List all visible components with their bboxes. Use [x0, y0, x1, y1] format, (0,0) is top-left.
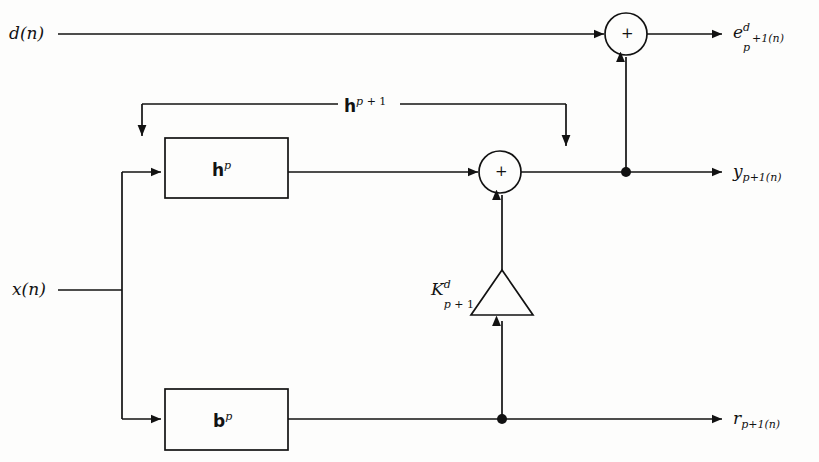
b-filter-block-label-base: b: [213, 411, 225, 431]
feedback-label-base: h: [344, 96, 356, 116]
b-filter-block-label: bp: [213, 411, 232, 430]
output-label-y-tail: +1(n): [750, 171, 782, 184]
output-label-y-base: y: [733, 161, 743, 181]
feedback-label-superscript: p + 1: [356, 95, 386, 108]
feedback-label-h-update: hp + 1: [344, 96, 386, 115]
gain-triangle-shape: [471, 270, 533, 315]
error-adder-plus-symbol: +: [621, 26, 634, 41]
gain-label-k-subscript-increment: + 1: [451, 298, 474, 311]
output-label-r: rp+1(n): [733, 410, 780, 430]
output-label-y: yp+1(n): [733, 163, 782, 183]
h-filter-block-label: hp: [212, 160, 231, 179]
gain-label-k-subscript-order: p: [444, 298, 451, 311]
gain-label-k-base: K: [431, 279, 444, 299]
output-adder-plus-symbol: +: [495, 164, 508, 179]
output-label-r-base: r: [733, 408, 741, 428]
h-filter-block-label-superscript: p: [224, 159, 231, 172]
output-label-e-superscript: d: [743, 22, 750, 33]
output-label-e-subscript: p: [743, 42, 750, 53]
block-diagram-canvas: + + d(n) x(n) edp+1(n) yp+1(n) rp+1(n) h…: [0, 0, 819, 462]
h-filter-block-label-base: h: [212, 160, 224, 180]
input-label-x: x(n): [12, 281, 46, 298]
gain-label-k-subscript: p + 1: [444, 299, 474, 310]
junction-dot-y: [621, 167, 631, 177]
input-label-d: d(n): [9, 25, 44, 42]
diagram-wires: [0, 0, 819, 462]
output-label-e: edp+1(n): [733, 24, 784, 44]
output-label-y-subscript: p: [743, 171, 750, 184]
feedback-label-superscript-increment: + 1: [363, 95, 386, 108]
output-label-e-tail: +1(n): [752, 32, 784, 45]
gain-label-k-superscript: d: [444, 279, 451, 290]
junction-dot-r: [497, 414, 507, 424]
output-label-r-tail: +1(n): [748, 418, 780, 431]
gain-label-k: Kdp + 1: [431, 281, 444, 298]
b-filter-block-label-superscript: p: [225, 410, 232, 423]
output-label-e-base: e: [733, 22, 743, 42]
